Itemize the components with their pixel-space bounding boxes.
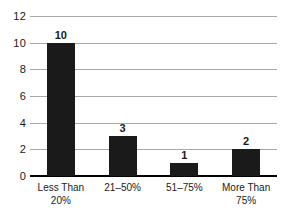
- bar-value-label: 1: [164, 150, 204, 161]
- bar-value-label: 2: [226, 136, 266, 147]
- bar: [170, 163, 198, 176]
- bar-chart: 024681012 10312 Less Than 20%21–50%51–75…: [0, 0, 289, 216]
- y-axis-tick-labels: 024681012: [0, 16, 26, 176]
- plot-area: 10312: [30, 16, 277, 176]
- x-axis-tick-label: Less Than 20%: [27, 181, 95, 207]
- bar: [109, 136, 137, 176]
- bar-value-label: 10: [41, 30, 81, 41]
- x-axis-tick-label: More Than 75%: [212, 181, 280, 207]
- y-axis-tick-label: 0: [4, 171, 26, 182]
- y-axis-tick-label: 4: [4, 118, 26, 129]
- y-axis-tick-label: 10: [4, 38, 26, 49]
- y-axis-tick-label: 8: [4, 64, 26, 75]
- y-axis-tick-label: 12: [4, 11, 26, 22]
- bar-value-label: 3: [103, 123, 143, 134]
- y-axis-tick-label: 2: [4, 144, 26, 155]
- x-axis-tick-label: 51–75%: [150, 181, 218, 194]
- gridline: [30, 16, 277, 17]
- bar: [47, 43, 75, 176]
- bar: [232, 149, 260, 176]
- y-axis-tick-label: 6: [4, 91, 26, 102]
- x-axis-tick-label: 21–50%: [89, 181, 157, 194]
